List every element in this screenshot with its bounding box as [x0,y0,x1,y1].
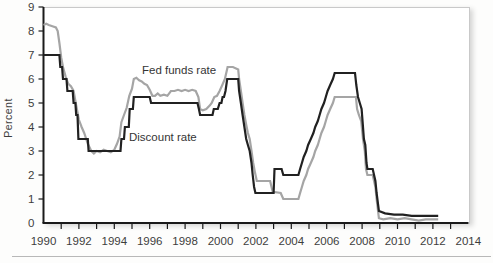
y-tick-label: 9 [28,1,34,13]
discount-rate-label: Discount rate [129,131,197,143]
x-tick-label: 2006 [314,235,340,247]
x-tick-label: 1996 [137,235,163,247]
y-tick-label: 7 [28,49,34,61]
x-tick-label: 2014 [456,235,482,247]
y-tick-label: 3 [28,145,34,157]
y-tick-label: 8 [28,25,34,37]
y-tick-label: 6 [28,73,34,85]
discount-rate-line [44,55,439,216]
x-tick-label: 1994 [102,235,128,247]
y-tick-label: 1 [28,193,34,205]
x-tick-label: 1990 [31,235,57,247]
y-tick-label: 2 [28,169,34,181]
x-tick-label: 2012 [420,235,446,247]
x-tick-label: 2010 [385,235,411,247]
y-axis-title: Percent [2,98,14,138]
y-tick-label: 4 [28,121,35,133]
bottom-divider [12,256,491,257]
x-tick-label: 2002 [243,235,269,247]
fed-funds-rate-label: Fed funds rate [142,64,216,76]
x-tick-label: 2008 [349,235,375,247]
x-tick-label: 2000 [208,235,234,247]
rate-line-chart: 1990199219941996199820002002200420062008… [0,0,493,263]
x-tick-label: 1998 [172,235,198,247]
x-tick-label: 2004 [279,235,305,247]
chart-figure: 1990199219941996199820002002200420062008… [0,0,493,263]
x-tick-label: 1992 [66,235,92,247]
y-tick-label: 0 [28,217,34,229]
y-tick-label: 5 [28,97,34,109]
fed-funds-rate-line [44,24,439,221]
